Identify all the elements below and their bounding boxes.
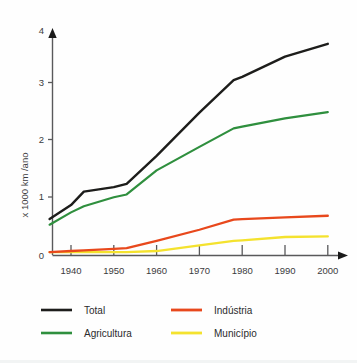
x-tick-label-1990: 1990 — [274, 265, 295, 276]
legend-label-municipio: Município — [214, 328, 257, 339]
y-tick-label-2: 2 — [39, 134, 44, 145]
y-axis-label: x 1000 km /ano — [19, 153, 30, 218]
chart-container: x 1000 km /ano 4 3 2 1 0 1940 1950 1960 … — [0, 0, 357, 363]
legend-label-agricultura: Agricultura — [84, 328, 132, 339]
chart-legend: Total Indústria Agricultura Município — [41, 305, 257, 339]
line-chart: x 1000 km /ano 4 3 2 1 0 1940 1950 1960 … — [0, 0, 357, 363]
legend-label-total: Total — [84, 305, 105, 316]
x-tick-label-1970: 1970 — [189, 265, 210, 276]
y-tick-label-0: 0 — [39, 250, 44, 261]
x-tick-label-1950: 1950 — [103, 265, 124, 276]
y-tick-label-3: 3 — [39, 77, 44, 88]
y-axis-arrow-icon — [48, 28, 56, 38]
x-tick-label-2000: 2000 — [317, 265, 338, 276]
series-layer — [50, 44, 328, 252]
x-axis-arrow-icon — [338, 252, 348, 260]
legend-label-industria: Indústria — [214, 305, 253, 316]
series-line-agricultura — [50, 112, 328, 225]
x-tick-label-1960: 1960 — [146, 265, 167, 276]
series-line-total — [50, 44, 328, 219]
y-tick-label-1: 1 — [39, 191, 44, 202]
x-tick-label-1980: 1980 — [232, 265, 253, 276]
x-tick-label-1940: 1940 — [60, 265, 81, 276]
y-tick-label-4: 4 — [39, 25, 44, 36]
